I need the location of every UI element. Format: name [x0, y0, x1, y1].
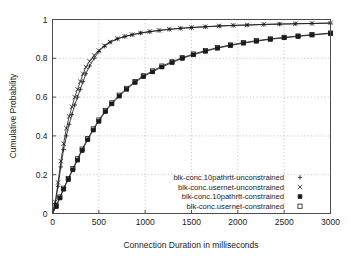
x-tick-label: 0 [50, 217, 55, 227]
marker-cross [298, 185, 302, 189]
x-axis-title: Connection Duration in milliseconds [123, 240, 258, 250]
legend-label-3: blk-conc.usernet-constrained [186, 202, 284, 211]
marker-plus [59, 165, 63, 169]
x-tick-label: 1500 [182, 217, 201, 227]
marker-open-square [298, 204, 302, 208]
marker-plus [56, 184, 60, 188]
marker-filled-square [76, 158, 80, 162]
y-axis-title: Cumulative Probability [8, 73, 18, 158]
x-tick-label: 2500 [275, 217, 294, 227]
y-tick-label: 0.8 [36, 53, 48, 63]
y-tick-label: 0 [43, 209, 48, 219]
x-tick-label: 1000 [136, 217, 155, 227]
y-tick-label: 0.2 [36, 170, 48, 180]
marker-filled-square [97, 119, 101, 123]
y-tick-label: 1 [43, 15, 48, 25]
marker-filled-square [71, 168, 75, 172]
marker-plus [298, 175, 302, 179]
marker-plus [87, 64, 91, 68]
x-tick-label: 2000 [228, 217, 247, 227]
y-tick-label: 0.6 [36, 92, 48, 102]
marker-cross [84, 65, 88, 69]
legend-label-1: blk-conc.usernet-unconstrained [178, 183, 284, 192]
y-tick-label: 0.4 [36, 131, 48, 141]
x-tick-labels: 050010001500200025003000 [50, 217, 340, 227]
cdf-plot: 050010001500200025003000 00.20.40.60.81 … [0, 0, 356, 260]
legend-label-2: blk-conc.10pathrtt-constrained [182, 192, 284, 201]
marker-filled-square [298, 195, 302, 199]
marker-filled-square [80, 149, 84, 153]
chart-figure: 050010001500200025003000 00.20.40.60.81 … [0, 0, 356, 260]
marker-cross [87, 59, 91, 63]
y-tick-labels: 00.20.40.60.81 [36, 15, 48, 219]
legend-label-0: blk-conc.10pathrtt-unconstrained [173, 173, 284, 182]
x-tick-label: 3000 [321, 217, 340, 227]
legend: blk-conc.10pathrtt-unconstrainedblk-conc… [173, 173, 302, 211]
marker-cross [70, 105, 74, 109]
x-tick-label: 500 [92, 217, 106, 227]
